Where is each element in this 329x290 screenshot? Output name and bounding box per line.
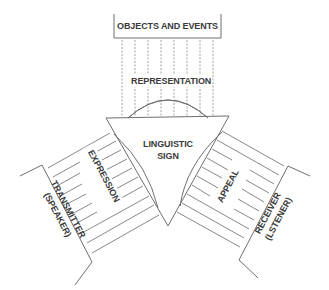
linguistic-sign-line1: LINGUISTIC — [128, 138, 208, 150]
linguistic-sign-line2: SIGN — [128, 150, 208, 162]
linguistic-sign-label: LINGUISTIC SIGN — [128, 138, 208, 162]
organon-model-diagram: OBJECTS AND EVENTS REPRESENTATION LINGUI… — [0, 0, 329, 290]
representation-label: REPRESENTATION — [129, 75, 208, 87]
objects-and-events-label: OBJECTS AND EVENTS — [114, 20, 221, 32]
